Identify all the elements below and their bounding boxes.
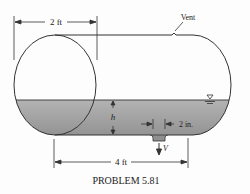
depth-label: h bbox=[111, 112, 116, 122]
diagram-canvas: 2 ft Vent h 2 in. V bbox=[0, 0, 250, 194]
velocity-label: V bbox=[163, 144, 169, 153]
tank-diagram: 2 ft Vent h 2 in. V bbox=[0, 0, 250, 194]
velocity-arrow-icon bbox=[157, 143, 162, 155]
drain-diameter-label: 2 in. bbox=[179, 120, 193, 129]
length-label: 4 ft bbox=[115, 157, 128, 167]
figure-caption: PROBLEM 5.81 bbox=[92, 175, 159, 186]
vent-label: Vent bbox=[181, 13, 196, 22]
diameter-label: 2 ft bbox=[50, 17, 63, 27]
vent-leader bbox=[175, 22, 183, 31]
